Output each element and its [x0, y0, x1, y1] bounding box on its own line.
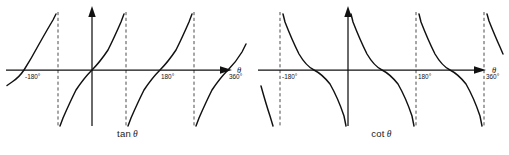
cot-theta-caption: cotθ — [254, 128, 509, 139]
tan-theta-chart-panel: -180° 180° 360° θ tanθ — [0, 0, 255, 155]
theta-axis-label: θ — [237, 65, 241, 75]
x-tick-label-minus-180: -180° — [25, 73, 41, 80]
x-tick-label-180: 180° — [418, 73, 432, 80]
cot-curve-branch-4 — [487, 14, 503, 54]
cot-caption-function: cot — [371, 128, 385, 139]
cot-caption-variable: θ — [385, 129, 392, 139]
cot-curve-branch-0 — [261, 86, 273, 126]
tan-caption-function: tan — [117, 128, 131, 139]
cot-theta-chart-panel: -180° 180° 360° θ cotθ — [254, 0, 509, 155]
cot-theta-plot: -180° 180° 360° θ — [254, 0, 509, 128]
tan-curve-branch-4 — [196, 44, 246, 126]
vertical-axis-arrow-icon — [344, 6, 351, 17]
theta-axis-label: θ — [492, 65, 496, 75]
vertical-axis-arrow-icon — [88, 6, 95, 17]
x-tick-label-minus-180: -180° — [282, 73, 298, 80]
trig-graphs-figure: -180° 180° 360° θ tanθ — [0, 0, 509, 155]
tan-caption-variable: θ — [131, 129, 138, 139]
tan-theta-caption: tanθ — [0, 128, 255, 139]
tan-theta-plot: -180° 180° 360° θ — [0, 0, 255, 128]
x-tick-label-180: 180° — [161, 73, 175, 80]
